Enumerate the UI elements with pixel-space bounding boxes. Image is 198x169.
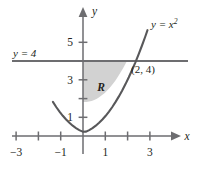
x-axis-label: x	[183, 130, 190, 142]
parabola-exponent: 2	[174, 17, 178, 26]
y-axis-label: y	[91, 5, 98, 18]
y-tick-label-1: 1	[67, 111, 73, 123]
parabola-equation-label: y = x2	[150, 17, 178, 31]
x-tick-label--1: −1	[55, 146, 67, 158]
y-tick-label-3: 3	[67, 74, 73, 86]
x-tick-label-3: 3	[147, 146, 153, 158]
y-axis-arrow-icon	[79, 7, 88, 17]
intersection-point-label: (2, 4)	[131, 63, 155, 76]
graph-svg: −3 −1 1 3 1 3 5 x y y = 4 y = x2 (2, 4) …	[0, 0, 198, 169]
x-axis-arrow-icon	[171, 132, 181, 141]
y-tick-label-5: 5	[67, 36, 73, 48]
x-tick-label--3: −3	[10, 146, 22, 158]
parabola-equation-text: y = x	[150, 18, 174, 30]
x-tick-label-1: 1	[102, 146, 108, 158]
line-equation-label: y = 4	[12, 47, 37, 59]
region-label-R: R	[96, 81, 105, 93]
figure-canvas: −3 −1 1 3 1 3 5 x y y = 4 y = x2 (2, 4) …	[0, 0, 198, 169]
